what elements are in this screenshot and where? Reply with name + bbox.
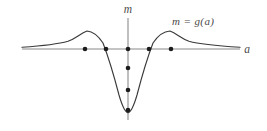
function-graph: m a m = g(a) xyxy=(0,0,267,131)
curve-m-equals-g-of-a xyxy=(22,31,240,113)
axis-dot-left-inner xyxy=(104,47,109,52)
origin-dot xyxy=(126,47,131,52)
axis-dot-right-outer xyxy=(169,47,174,52)
horizontal-axis-label: a xyxy=(244,43,250,55)
m-axis-dot-middle xyxy=(126,88,131,93)
axis-dot-right-inner xyxy=(147,47,152,52)
axis-dot-left-outer xyxy=(83,47,88,52)
figure-container: m a m = g(a) xyxy=(0,0,267,131)
vertical-axis-label: m xyxy=(124,3,132,15)
curve-equation-label: m = g(a) xyxy=(172,15,214,28)
m-axis-dot-lower xyxy=(126,108,131,113)
m-axis-dot-upper xyxy=(126,66,131,71)
